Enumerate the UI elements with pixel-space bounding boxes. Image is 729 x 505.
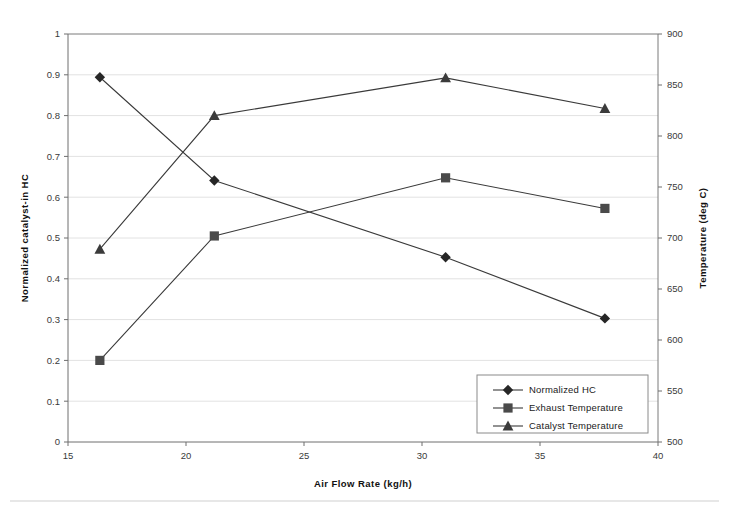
data-point-marker bbox=[600, 204, 609, 213]
y-tick-label: 0 bbox=[55, 436, 60, 447]
y-tick-label: 0.1 bbox=[47, 396, 60, 407]
y-tick-label: 0.8 bbox=[47, 110, 60, 121]
y2-tick-label: 700 bbox=[667, 232, 683, 243]
x-tick-label: 25 bbox=[299, 450, 310, 461]
x-tick-label: 20 bbox=[181, 450, 192, 461]
y2-tick-label: 500 bbox=[667, 436, 683, 447]
legend-label: Normalized HC bbox=[529, 384, 596, 395]
data-point-marker bbox=[441, 173, 450, 182]
y2-tick-label: 850 bbox=[667, 79, 683, 90]
x-tick-label: 35 bbox=[535, 450, 546, 461]
x-tick-label: 30 bbox=[417, 450, 428, 461]
y2-tick-label: 550 bbox=[667, 385, 683, 396]
chart-legend: Normalized HCExhaust TemperatureCatalyst… bbox=[477, 375, 648, 433]
legend-label: Exhaust Temperature bbox=[529, 402, 623, 413]
y-tick-label: 0.7 bbox=[47, 151, 60, 162]
legend-label: Catalyst Temperature bbox=[529, 420, 623, 431]
y-tick-label: 0.5 bbox=[47, 232, 60, 243]
x-tick-label: 15 bbox=[63, 450, 74, 461]
y-tick-label: 0.6 bbox=[47, 192, 60, 203]
y2-tick-label: 750 bbox=[667, 181, 683, 192]
y-axis-right-title: Temperature (deg C) bbox=[697, 188, 708, 289]
y2-tick-label: 600 bbox=[667, 334, 683, 345]
y-axis-left-title: Normalized catalyst-in HC bbox=[19, 174, 30, 302]
chart-canvas: 00.10.20.30.40.50.60.70.80.91 5005506006… bbox=[0, 0, 729, 505]
x-tick-label: 40 bbox=[653, 450, 664, 461]
y-tick-label: 0.9 bbox=[47, 69, 60, 80]
x-axis-title: Air Flow Rate (kg/h) bbox=[314, 478, 412, 489]
y-tick-label: 1 bbox=[55, 28, 60, 39]
y-tick-label: 0.2 bbox=[47, 355, 60, 366]
y-tick-label: 0.4 bbox=[47, 273, 60, 284]
y2-tick-label: 650 bbox=[667, 283, 683, 294]
data-point-marker bbox=[95, 356, 104, 365]
legend-marker-square bbox=[503, 403, 512, 412]
y2-tick-label: 900 bbox=[667, 28, 683, 39]
chart-figure: 00.10.20.30.40.50.60.70.80.91 5005506006… bbox=[0, 0, 729, 505]
y-tick-label: 0.3 bbox=[47, 314, 60, 325]
data-point-marker bbox=[210, 231, 219, 240]
y2-tick-label: 800 bbox=[667, 130, 683, 141]
